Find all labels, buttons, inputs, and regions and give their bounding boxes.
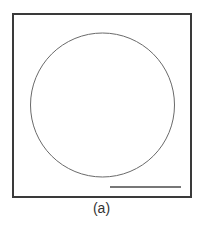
circle-outline	[31, 33, 175, 177]
figure-label: (a)	[0, 200, 203, 216]
figure-panel-a	[0, 0, 203, 234]
frame-border	[13, 14, 191, 197]
